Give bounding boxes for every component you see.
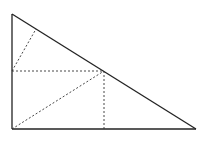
dashed-median [12, 71, 104, 129]
dashed-perpendicular [12, 29, 36, 71]
geometry-diagram [0, 0, 213, 141]
construction-lines [12, 29, 104, 129]
